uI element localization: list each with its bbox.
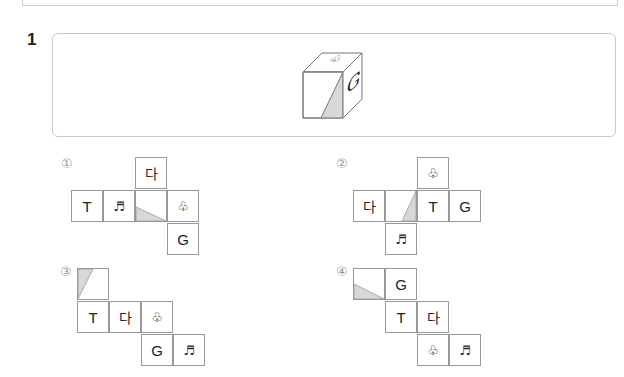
net-face: T	[71, 190, 103, 222]
net-face: T	[417, 190, 449, 222]
net-face: G	[141, 334, 173, 366]
question-number: 1	[27, 30, 36, 50]
net-face: T	[385, 301, 417, 333]
net-face: G	[449, 190, 481, 222]
music-note-icon: ♬	[113, 199, 125, 214]
club-icon: ♧	[151, 310, 163, 325]
club-icon: ♧	[427, 166, 439, 181]
net-face: ♬	[103, 190, 135, 222]
net-face-shaded	[135, 190, 167, 222]
net-face: ♬	[449, 334, 481, 366]
net-face-shaded	[77, 268, 109, 300]
option-label: ③	[60, 264, 72, 279]
net-face: T	[77, 301, 109, 333]
net-face: ♬	[385, 223, 417, 255]
option-label: ②	[336, 156, 348, 171]
net-face: ♧	[417, 334, 449, 366]
net-face: 다	[109, 301, 141, 333]
net-face: ♧	[141, 301, 173, 333]
option-label: ④	[336, 264, 348, 279]
music-note-icon: ♬	[459, 343, 471, 358]
net-face-shaded	[353, 268, 385, 300]
net-face: G	[385, 268, 417, 300]
net-face: G	[167, 223, 199, 255]
net-face: 다	[353, 190, 385, 222]
net-face: ♧	[167, 190, 199, 222]
club-icon: ♧	[427, 343, 439, 358]
music-note-icon: ♬	[395, 232, 407, 247]
net-face-shaded	[385, 190, 417, 222]
net-face: 다	[417, 301, 449, 333]
net-face: ♧	[417, 157, 449, 189]
cube-figure: ♧ G	[300, 50, 380, 134]
club-icon: ♧	[177, 199, 189, 214]
net-face: ♬	[173, 334, 205, 366]
net-face: 다	[135, 157, 167, 189]
option-label: ①	[61, 156, 73, 171]
previous-question-box	[22, 0, 618, 6]
music-note-icon: ♬	[183, 343, 195, 358]
